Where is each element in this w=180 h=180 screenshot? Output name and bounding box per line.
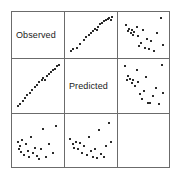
- data-point: [31, 89, 33, 91]
- data-point: [137, 81, 139, 83]
- data-point: [134, 85, 136, 87]
- data-point: [38, 81, 40, 83]
- data-point: [75, 141, 77, 143]
- panel-observed-vs-predicted: [65, 12, 117, 58]
- data-point: [48, 73, 50, 75]
- data-point: [96, 29, 98, 31]
- data-point: [17, 105, 19, 107]
- data-point: [136, 26, 138, 28]
- data-point: [48, 143, 50, 145]
- data-point: [32, 152, 34, 154]
- data-point: [54, 68, 56, 70]
- data-point: [17, 141, 19, 143]
- data-point: [161, 64, 163, 66]
- data-point: [23, 154, 25, 156]
- data-point: [41, 79, 43, 81]
- data-point: [34, 86, 36, 88]
- data-point: [22, 100, 24, 102]
- data-point: [132, 79, 134, 81]
- data-point: [52, 69, 54, 71]
- data-point: [127, 30, 129, 32]
- scatterplot-matrix: Observed Predicted: [11, 11, 170, 168]
- data-point: [55, 125, 57, 127]
- data-point: [129, 78, 131, 80]
- data-point: [131, 82, 133, 84]
- data-point: [110, 141, 112, 143]
- data-point: [79, 142, 81, 144]
- panel-observed-vs-std-residuals: [118, 12, 170, 58]
- data-point: [90, 32, 92, 34]
- data-point: [124, 65, 126, 67]
- data-point: [150, 40, 152, 42]
- data-point: [27, 150, 29, 152]
- data-point: [52, 152, 54, 154]
- data-point: [143, 90, 145, 92]
- data-point: [140, 42, 142, 44]
- data-point: [149, 102, 151, 104]
- data-point: [45, 156, 47, 158]
- data-point: [158, 103, 160, 105]
- data-point: [137, 35, 139, 37]
- data-point: [148, 48, 150, 50]
- data-point: [30, 136, 32, 138]
- data-point: [42, 128, 44, 130]
- data-point: [110, 19, 112, 21]
- data-point: [76, 47, 78, 49]
- data-point: [21, 139, 23, 141]
- panel-predicted-predicted: Predicted: [65, 59, 117, 113]
- data-point: [20, 151, 22, 153]
- data-point: [145, 76, 147, 78]
- data-point: [136, 69, 138, 71]
- data-point: [125, 24, 127, 26]
- data-point: [79, 43, 81, 45]
- data-point: [132, 34, 134, 36]
- data-point: [88, 34, 90, 36]
- data-point: [153, 50, 155, 52]
- data-point: [38, 158, 40, 160]
- data-point: [162, 92, 164, 94]
- panel-std-residuals-vs-observed: [12, 114, 64, 169]
- data-point: [88, 136, 90, 138]
- data-point: [72, 143, 74, 145]
- data-point: [108, 122, 110, 124]
- data-point: [111, 16, 113, 18]
- data-point: [126, 79, 128, 81]
- data-point: [155, 87, 157, 89]
- data-point: [144, 47, 146, 49]
- data-point: [77, 148, 79, 150]
- data-point: [139, 93, 141, 95]
- panel-observed-observed: Observed: [12, 12, 64, 58]
- data-point: [26, 94, 28, 96]
- data-point: [152, 95, 154, 97]
- data-point: [81, 152, 83, 154]
- data-point: [94, 148, 96, 150]
- panel-std-residuals-vs-predicted: [65, 114, 117, 169]
- data-point: [18, 148, 20, 150]
- data-point: [83, 39, 85, 41]
- data-point: [86, 154, 88, 156]
- data-point: [160, 17, 162, 19]
- diagonal-label-observed: Observed: [16, 30, 56, 40]
- data-point: [141, 98, 143, 100]
- data-point: [83, 145, 85, 147]
- data-point: [44, 79, 46, 81]
- data-point: [146, 38, 148, 40]
- data-point: [19, 145, 21, 147]
- data-point: [19, 103, 21, 105]
- data-point: [97, 26, 99, 28]
- data-point: [100, 153, 102, 155]
- diagonal-label-predicted: Predicted: [69, 81, 108, 91]
- data-point: [58, 64, 60, 66]
- data-point: [46, 75, 48, 77]
- data-point: [29, 92, 31, 94]
- data-point: [73, 147, 75, 149]
- data-point: [98, 129, 100, 131]
- panel-predicted-vs-observed: [12, 59, 64, 113]
- data-point: [72, 48, 74, 50]
- data-point: [36, 84, 38, 86]
- data-point: [28, 156, 30, 158]
- data-point: [36, 155, 38, 157]
- data-point: [50, 71, 52, 73]
- data-point: [25, 143, 27, 145]
- data-point: [40, 148, 42, 150]
